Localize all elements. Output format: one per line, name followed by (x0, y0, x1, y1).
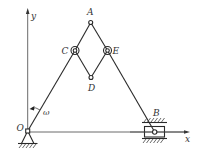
pin-O (26, 129, 30, 133)
label-C: C (62, 46, 69, 56)
link-AE (91, 23, 108, 51)
label-A: A (86, 7, 94, 17)
pin-E (106, 49, 110, 53)
label-B: B (152, 108, 160, 118)
pin-C (73, 49, 77, 53)
ground-support-O: O (17, 123, 38, 148)
link-CA (75, 23, 91, 51)
pin-B (153, 130, 157, 134)
link-EB (108, 51, 155, 133)
label-E: E (112, 46, 120, 56)
link-CD (75, 51, 91, 78)
link-DE (91, 51, 108, 78)
pin-A (89, 21, 93, 25)
y-axis: y (26, 8, 37, 131)
y-axis-arrow-icon (26, 8, 30, 14)
omega-label: ω (43, 108, 50, 117)
x-axis-label: x (185, 134, 190, 144)
joints: A C E D (62, 7, 120, 93)
linkage-diagram: y x O ω A (0, 0, 202, 160)
pin-D (89, 76, 93, 80)
slider-B: B (130, 108, 186, 143)
y-axis-label: y (30, 11, 37, 21)
label-O: O (17, 123, 25, 133)
link-OC (28, 51, 75, 132)
label-D: D (87, 83, 95, 93)
omega-arrow-icon (30, 106, 35, 111)
